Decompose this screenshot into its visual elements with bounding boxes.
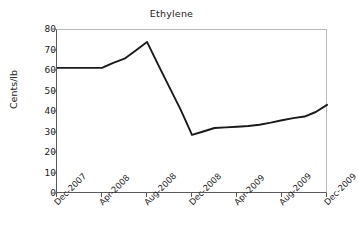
x-tick-label: Dec-2008 (187, 171, 223, 207)
x-tick-label: Apr-2009 (232, 173, 267, 208)
x-tick-label: Dec-2007 (52, 171, 88, 207)
x-tick-label: Aug-2008 (142, 171, 178, 207)
x-tick-label: Apr-2008 (97, 173, 132, 208)
x-tick-label: Dec-2009 (322, 171, 358, 207)
x-tick-label: Aug-2009 (277, 171, 313, 207)
